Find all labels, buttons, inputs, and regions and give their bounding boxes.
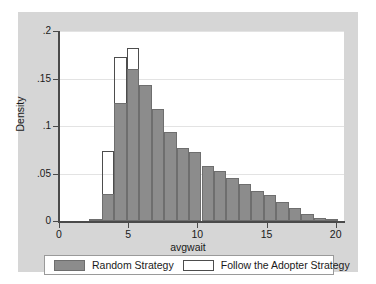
histogram-bar [127,69,139,221]
y-tick-mark [53,79,58,80]
histogram-bar [289,208,301,221]
x-tick-label: 0 [44,229,74,240]
y-tick-label: .15 [37,74,51,84]
legend-swatch-filled-icon [54,260,85,271]
gridline [59,126,344,127]
legend-swatch-outline-icon [183,260,214,271]
histogram-bar [164,132,176,221]
y-axis-title: Density [14,96,26,131]
y-tick-label: .2 [43,26,51,36]
histogram-bar [202,166,214,221]
histogram-bar [102,194,114,221]
graph-region: 0.05.1.15.2 05101520 Density avgwait Ran… [18,12,358,272]
x-axis-title: avgwait [18,241,358,253]
histogram-bar [239,184,251,221]
histogram-bar [214,171,226,221]
y-tick-mark [53,31,58,32]
legend-label: Follow the Adopter Strategy [221,259,350,271]
histogram-bar [251,191,263,221]
x-tick-label: 5 [113,229,143,240]
legend-entry: Random Strategy [45,259,174,271]
histogram-bar [226,178,238,221]
histogram-bar [276,202,288,221]
histogram-bar [114,103,126,221]
x-tick-label: 10 [182,229,212,240]
legend-entry: Follow the Adopter Strategy [174,259,350,271]
chart-legend: Random StrategyFollow the Adopter Strate… [44,255,334,275]
histogram-bar [139,85,151,221]
histogram-bar [264,195,276,221]
x-tick-label: 15 [252,229,282,240]
y-tick-mark [53,221,58,222]
y-tick-mark [53,174,58,175]
x-axis-line [58,221,345,223]
gridline [59,31,344,32]
y-tick-mark [53,126,58,127]
y-tick-label: .05 [37,169,51,179]
histogram-bar [301,214,313,221]
y-tick-label: .1 [43,121,51,131]
x-tick-label: 20 [321,229,351,240]
plot-area [59,31,344,221]
histogram-bar [152,109,164,221]
y-tick-label: 0 [45,216,51,226]
chart-screenshot: 0.05.1.15.2 05101520 Density avgwait Ran… [0,0,376,284]
gridline [59,79,344,80]
histogram-bar [189,152,201,221]
y-axis-line [58,31,60,223]
histogram-bar [177,148,189,221]
legend-label: Random Strategy [92,259,174,271]
